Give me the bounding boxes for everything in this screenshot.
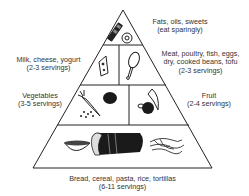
- label-vegetables: Vegetables (3-5 servings): [10, 92, 70, 109]
- fruit-illustration: [138, 89, 158, 114]
- cereal-bowl-icon: [64, 141, 90, 151]
- tomato-icon: [103, 92, 117, 104]
- bread-loaf-icon: [91, 133, 143, 155]
- candy-bar-icon: [107, 22, 123, 42]
- carrot-icon: [78, 90, 100, 116]
- drumstick-icon: [127, 51, 142, 80]
- label-fats: Fats, oils, sweets (eat sparingly): [140, 18, 220, 35]
- donut-icon: [122, 33, 132, 43]
- group-servings: (2-4 servings): [180, 100, 238, 108]
- label-milk: Milk, cheese, yogurt (2-3 servings): [6, 56, 91, 73]
- group-servings: (6-11 servings): [55, 183, 190, 191]
- group-servings: (3-5 servings): [10, 100, 70, 108]
- label-fruit: Fruit (2-4 servings): [180, 92, 238, 109]
- group-servings: (eat sparingly): [140, 26, 220, 34]
- label-meat: Meat, poultry, fish, eggs, dry, cooked b…: [152, 50, 249, 75]
- grains-illustration: [64, 133, 184, 155]
- apple-icon: [142, 102, 154, 114]
- vegetables-illustration: [78, 90, 117, 118]
- group-servings: (2-3 servings): [152, 67, 249, 75]
- label-grains: Bread, cereal, pasta, rice, tortillas (6…: [55, 175, 190, 192]
- group-servings: (2-3 servings): [6, 64, 91, 72]
- peas-icon: [80, 111, 94, 118]
- pasta-icon: [150, 138, 184, 153]
- cheese-icon: [99, 56, 108, 76]
